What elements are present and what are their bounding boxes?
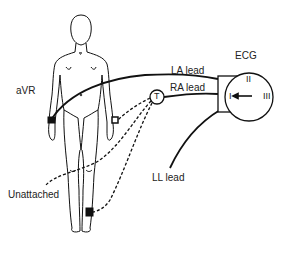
ll-lead-wire [170,110,220,168]
avr-label: aVR [16,86,35,96]
dashed-to-left-leg [93,103,152,212]
ecg-lead-diagram [0,0,289,253]
t-node-label: T [154,92,160,101]
ra-lead-label: RA lead [170,83,205,93]
dashed-leads [46,98,152,212]
left-arm-electrode [112,117,118,123]
left-leg-electrode [86,208,93,216]
ecg-lead-i-mark: I [229,92,232,101]
ecg-lead-iii-mark: III [263,92,271,101]
ecg-lead-ii-mark: II [246,75,251,84]
ra-lead-wire [164,94,218,97]
ll-lead-label: LL lead [152,173,184,183]
unattached-label: Unattached [8,190,59,200]
ecg-label: ECG [235,51,257,61]
la-lead-label: LA lead [171,66,204,76]
